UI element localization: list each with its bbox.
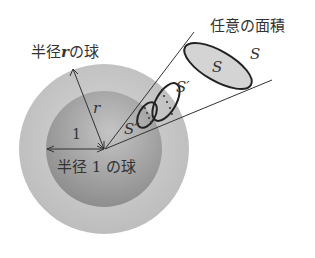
label-inner-sphere: 半径 1 の球 [57,155,136,176]
label-s-outside: S [250,45,260,63]
outer-sphere-suffix: の球 [69,43,99,61]
outer-sphere-var: r [61,43,69,61]
label-s-prime: S′ [176,78,190,96]
label-outer-sphere: 半径rの球 [31,40,99,61]
label-radius-1: 1 [72,126,81,142]
outer-sphere-prefix: 半径 [31,43,61,61]
label-s-inside: S [212,58,222,76]
label-arbitrary-area: 任意の面積 [210,14,285,35]
diagram-canvas [0,0,315,258]
label-radius-r: r [93,99,100,117]
label-s-double-prime: S″ [124,120,140,138]
